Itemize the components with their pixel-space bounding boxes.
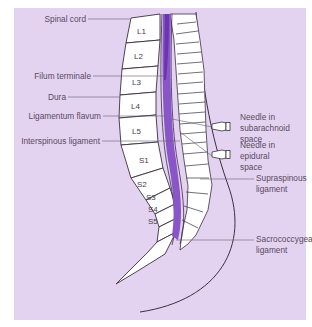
vertebra-l4: L4: [131, 102, 140, 111]
label-sacrococcygeal-ligament: Sacrococcygeal ligament: [256, 234, 312, 256]
vertebra-l1: L1: [137, 27, 146, 36]
vertebra-s5: S5: [148, 217, 158, 226]
vertebra-l2: L2: [134, 52, 143, 61]
vertebra-s4: S4: [148, 205, 158, 214]
vertebra-s1: S1: [139, 156, 149, 165]
vertebra-l5: L5: [132, 127, 141, 136]
vertebra-l3: L3: [132, 78, 141, 87]
label-spinal-cord: Spinal cord: [20, 14, 86, 25]
needle-epidural: [212, 150, 230, 159]
needle-subarachnoid: [212, 122, 230, 131]
label-filum-terminale: Filum terminale: [18, 71, 91, 82]
label-ligamentum-flavum: Ligamentum flavum: [16, 111, 101, 122]
label-supraspinous-ligament: Supraspinous ligament: [256, 173, 307, 195]
vertebra-s2: S2: [137, 180, 147, 189]
label-needle-epidural: Needle in epidural space: [240, 140, 275, 173]
label-dura: Dura: [20, 92, 66, 103]
vertebra-s3: S3: [146, 193, 156, 202]
label-interspinous-ligament: Interspinous ligament: [14, 136, 100, 147]
